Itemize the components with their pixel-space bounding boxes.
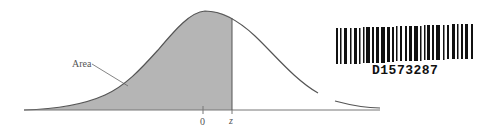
normal-curve-figure: Area 0 z D1573287	[0, 0, 488, 132]
area-label: Area	[72, 58, 91, 69]
normal-curve-tail	[335, 101, 380, 108]
tick-label-z: z	[229, 115, 233, 126]
shaded-area	[24, 11, 232, 110]
barcode-number: D1573287	[372, 63, 438, 78]
barcode-icon	[336, 24, 473, 64]
area-pointer	[92, 64, 128, 86]
tick-label-zero: 0	[200, 116, 205, 127]
